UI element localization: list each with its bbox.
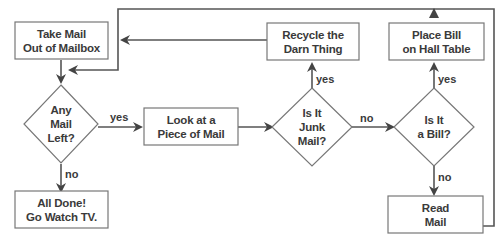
take-mail-line2: Out of Mailbox <box>15 41 108 55</box>
junk-line2: Junk <box>282 120 342 134</box>
junk-line1: Is It <box>282 106 342 120</box>
take-mail-label: Take Mail Out of Mailbox <box>15 27 108 55</box>
any-line1: Any <box>31 103 91 117</box>
edge-label-junk-yes: yes <box>316 73 334 85</box>
take-mail-line1: Take Mail <box>15 27 108 41</box>
recycle-label: Recycle the Darn Thing <box>267 28 359 56</box>
edge-label-junk-no: no <box>360 112 373 124</box>
edge-label-any-no: no <box>65 168 78 180</box>
all-done-label: All Done! Go Watch TV. <box>15 196 108 224</box>
recycle-line2: Darn Thing <box>267 42 359 56</box>
edge-label-bill-yes: yes <box>438 73 456 85</box>
junk-line3: Mail? <box>282 134 342 148</box>
read-mail-label: Read Mail <box>388 201 483 229</box>
is-junk-label: Is It Junk Mail? <box>282 106 342 148</box>
is-bill-label: Is It a Bill? <box>404 113 464 141</box>
any-line3: Left? <box>31 131 91 145</box>
edge-label-any-yes: yes <box>110 111 128 123</box>
bill-line2: a Bill? <box>404 127 464 141</box>
all-done-line1: All Done! <box>15 196 108 210</box>
look-line1: Look at a <box>144 113 238 127</box>
place-bill-line1: Place Bill <box>389 28 484 42</box>
place-bill-label: Place Bill on Hall Table <box>389 28 484 56</box>
all-done-line2: Go Watch TV. <box>15 210 108 224</box>
recycle-line1: Recycle the <box>267 28 359 42</box>
read-line1: Read <box>388 201 483 215</box>
look-line2: Piece of Mail <box>144 127 238 141</box>
look-at-mail-label: Look at a Piece of Mail <box>144 113 238 141</box>
edge-label-bill-no: no <box>438 171 451 183</box>
bill-line1: Is It <box>404 113 464 127</box>
place-bill-line2: on Hall Table <box>389 42 484 56</box>
any-mail-left-label: Any Mail Left? <box>31 103 91 145</box>
read-line2: Mail <box>388 215 483 229</box>
any-line2: Mail <box>31 117 91 131</box>
